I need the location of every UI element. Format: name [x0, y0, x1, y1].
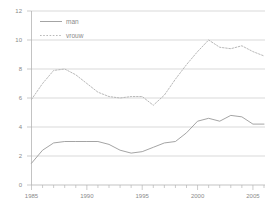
chart-canvas: 024681012 19851990199520002005 man vrouw [0, 0, 267, 202]
y-tick-label-12: 12 [15, 8, 22, 14]
y-tick-label-4: 4 [19, 124, 23, 130]
y-tick-label-2: 2 [19, 153, 23, 159]
x-tick-label-2005: 2005 [246, 193, 260, 199]
legend-label-vrouw: vrouw [66, 32, 84, 39]
x-axis-tick-labels: 19851990199520002005 [25, 193, 260, 199]
series-line-vrouw [32, 40, 265, 105]
legend: man vrouw [40, 18, 84, 39]
y-tick-label-8: 8 [19, 66, 23, 72]
y-tick-label-0: 0 [19, 182, 23, 188]
x-tick-label-2000: 2000 [191, 193, 205, 199]
line-chart: 024681012 19851990199520002005 man vrouw [0, 0, 267, 202]
y-tick-label-6: 6 [19, 95, 23, 101]
x-tick-label-1990: 1990 [80, 193, 94, 199]
legend-label-man: man [66, 18, 79, 25]
x-axis-tick-marks [32, 185, 265, 190]
y-axis-tick-labels: 024681012 [15, 8, 31, 188]
x-tick-label-1985: 1985 [25, 193, 39, 199]
y-tick-label-10: 10 [15, 37, 22, 43]
x-tick-label-1995: 1995 [136, 193, 150, 199]
